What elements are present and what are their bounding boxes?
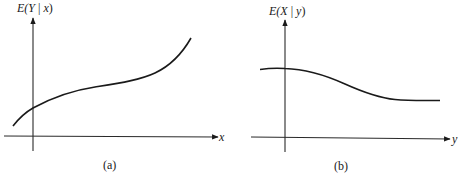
panel-b-ylabel: E(X | y) [268, 4, 305, 18]
panel-a-curve [13, 38, 191, 126]
panel-b-ylabel-bar: | [288, 4, 296, 18]
panel-a-xlabel: x [218, 130, 225, 144]
panel-a-ylabel-suffix: ) [49, 1, 53, 15]
panel-b-curve [260, 68, 440, 100]
panel-b-caption: (b) [334, 159, 348, 173]
panel-a-ylabel-bar: | [35, 1, 43, 15]
panel-a-x-axis [4, 136, 218, 137]
panel-b-x-axis [251, 137, 450, 139]
panel-a-caption: (a) [103, 158, 116, 172]
panel-b-ylabel-suffix: ) [301, 4, 305, 18]
panel-b: E(X | y) y (b) [251, 4, 458, 173]
panel-b-ylabel-prefix: E( [268, 4, 281, 18]
panel-a-ylabel: E(Y | x) [16, 1, 53, 15]
panel-a-ylabel-prefix: E( [16, 1, 29, 15]
conditional-expectation-figure: E(Y | x) x (a) E(X | y) y (b) [0, 0, 464, 179]
panel-b-xlabel: y [451, 132, 458, 146]
panel-a: E(Y | x) x (a) [4, 1, 225, 172]
